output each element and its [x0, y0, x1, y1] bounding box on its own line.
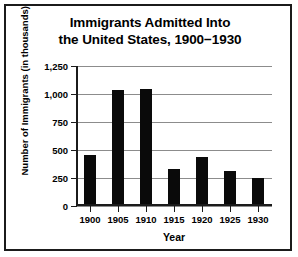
x-tick-label: 1905 — [107, 214, 128, 225]
chart-title: Immigrants Admitted Into the United Stat… — [26, 14, 274, 48]
y-axis-label: Number of Immigrants (in thousands) — [19, 16, 30, 176]
x-tick-label: 1925 — [219, 214, 240, 225]
bar — [224, 171, 237, 205]
y-tick-mark — [71, 66, 77, 67]
y-tick-mark — [71, 150, 77, 151]
y-tick-mark — [71, 122, 77, 123]
y-tick-label: 1,250 — [44, 61, 68, 72]
y-axis-line — [76, 66, 78, 206]
x-tick-label: 1915 — [163, 214, 184, 225]
x-tick-label: 1920 — [191, 214, 212, 225]
gridline — [76, 66, 272, 67]
y-tick-label: 1,000 — [44, 89, 68, 100]
x-tick-mark — [118, 206, 119, 212]
chart-title-line-1: Immigrants Admitted Into — [26, 14, 274, 31]
plot-area: 02505007501,0001,250 1900190519101915192… — [76, 66, 272, 206]
bar — [140, 89, 153, 205]
x-tick-mark — [258, 206, 259, 212]
x-tick-label: 1900 — [79, 214, 100, 225]
y-tick-label: 0 — [63, 201, 68, 212]
y-tick-mark — [71, 94, 77, 95]
bar — [168, 169, 181, 205]
x-tick-mark — [202, 206, 203, 212]
x-tick-mark — [174, 206, 175, 212]
chart-title-line-2: the United States, 1900−1930 — [26, 31, 274, 48]
y-tick-label: 750 — [52, 117, 68, 128]
x-tick-mark — [90, 206, 91, 212]
bar — [112, 90, 125, 205]
gridline — [76, 150, 272, 151]
x-tick-label: 1910 — [135, 214, 156, 225]
y-tick-mark — [71, 206, 77, 207]
bar — [252, 178, 265, 205]
x-tick-label: 1930 — [247, 214, 268, 225]
bar — [196, 157, 209, 205]
y-tick-mark — [71, 178, 77, 179]
bar — [84, 155, 97, 205]
chart-figure: Immigrants Admitted Into the United Stat… — [4, 4, 292, 251]
y-tick-label: 500 — [52, 145, 68, 156]
plot-canvas: 02505007501,0001,250 1900190519101915192… — [76, 66, 272, 206]
x-axis-label: Year — [76, 231, 272, 243]
gridline — [76, 94, 272, 95]
x-tick-mark — [146, 206, 147, 212]
gridline — [76, 122, 272, 123]
x-tick-mark — [230, 206, 231, 212]
y-tick-label: 250 — [52, 173, 68, 184]
